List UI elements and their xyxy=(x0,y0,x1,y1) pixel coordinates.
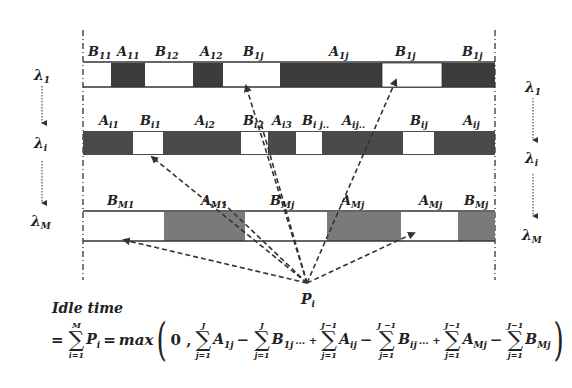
svg-text:B11: B11 xyxy=(87,44,112,61)
sum-b1j: J∑j=1 xyxy=(254,321,270,359)
svg-text:AM1: AM1 xyxy=(199,193,227,210)
formula-equation: = M ∑ i=1 Pi = max ( 0 , J∑j=1 A1j − J∑j… xyxy=(48,318,568,362)
formula-title: Idle time xyxy=(52,300,568,316)
sum-bij: J −1∑j=1 xyxy=(377,321,396,359)
row-1-labels: B11 A11 B12 A12 B1j A1j B1j B1j xyxy=(87,44,483,61)
svg-text:A1j: A1j xyxy=(327,44,349,61)
row-3-labels: BM1 AM1 BMj AMj AMj BMj xyxy=(106,193,489,210)
svg-text:λM: λM xyxy=(30,213,52,231)
wavelength-axis-left: λ1 λi λM xyxy=(30,67,52,231)
svg-text:λM: λM xyxy=(521,227,543,245)
svg-text:A12: A12 xyxy=(198,44,223,61)
idle-time-formula: Idle time = M ∑ i=1 Pi = max ( 0 , J∑j=1… xyxy=(48,300,568,362)
svg-text:A11: A11 xyxy=(115,44,140,61)
svg-text:λ1: λ1 xyxy=(33,67,50,85)
svg-text:Bi1: Bi1 xyxy=(139,113,161,130)
svg-text:Aij: Aij xyxy=(461,113,481,130)
pi-arrows xyxy=(124,80,414,283)
svg-text:B1j: B1j xyxy=(242,44,264,61)
sigma-icon: ∑ xyxy=(69,329,85,351)
svg-text:Ai1: Ai1 xyxy=(97,113,119,130)
sum-amj: J−1∑j=1 xyxy=(445,321,461,359)
svg-text:λi: λi xyxy=(33,135,48,153)
row-2-labels: Ai1 Bi1 Ai2 Bi2 Ai3 Bi j.. Aij.. Bij Aij xyxy=(97,113,481,130)
zero-arg: 0 , xyxy=(171,331,192,349)
row-lambda-i xyxy=(83,131,495,155)
wavelength-axis-right: λ1 λi λM xyxy=(521,79,543,245)
svg-text:BM1: BM1 xyxy=(106,193,134,210)
svg-text:BMj: BMj xyxy=(463,193,489,210)
svg-text:Aij..: Aij.. xyxy=(340,113,365,130)
sum-a1j: J∑j=1 xyxy=(195,321,211,359)
svg-text:Bi j..: Bi j.. xyxy=(301,113,329,130)
svg-text:Bi2: Bi2 xyxy=(242,113,264,130)
svg-text:AMj: AMj xyxy=(417,193,443,210)
svg-text:Ai2: Ai2 xyxy=(193,113,215,130)
svg-text:B1j: B1j xyxy=(394,44,416,61)
outer-term: Pi xyxy=(86,331,100,350)
max-function: max xyxy=(119,331,154,349)
formula-lead-equals: = xyxy=(51,331,64,349)
svg-text:B1j: B1j xyxy=(461,44,483,61)
right-paren: ) xyxy=(554,318,564,362)
left-paren: ( xyxy=(157,318,167,362)
svg-text:AMj: AMj xyxy=(339,193,365,210)
sum-bmj: J−1∑j=1 xyxy=(507,321,523,359)
svg-text:Ai3: Ai3 xyxy=(270,113,292,130)
outer-sum: M ∑ i=1 xyxy=(69,321,85,359)
svg-text:B12: B12 xyxy=(154,44,179,61)
svg-text:Bij: Bij xyxy=(409,113,428,130)
svg-text:λi: λi xyxy=(524,150,539,168)
row-lambda-1 xyxy=(83,62,495,87)
sum-aij: J−1∑j=1 xyxy=(321,321,337,359)
svg-text:λ1: λ1 xyxy=(524,79,541,97)
